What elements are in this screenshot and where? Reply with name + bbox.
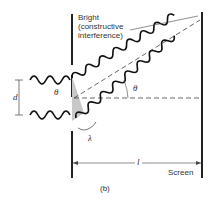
d-label: d [13, 93, 18, 102]
bright-pointer [130, 16, 198, 30]
screen-label: Screen [168, 168, 193, 177]
bright-label-line3: interference) [78, 31, 123, 40]
incoming-wave-bottom [30, 111, 70, 119]
l-label: l [135, 158, 142, 167]
outgoing-wave-bottom [74, 33, 177, 121]
bright-label-line1: Bright [78, 13, 99, 22]
lambda-brace [78, 122, 96, 130]
theta-label-center: θ [133, 84, 137, 93]
theta-label-slit: θ [54, 88, 58, 97]
lambda-label: λ [88, 134, 92, 143]
path-difference-triangle [72, 76, 84, 121]
caption: (b) [100, 184, 110, 193]
incoming-wave-top [30, 76, 70, 84]
bright-label-line2: (constructive [78, 22, 123, 31]
